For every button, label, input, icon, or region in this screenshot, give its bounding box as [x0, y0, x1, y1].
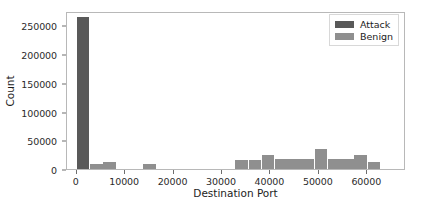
bar-benign-2730: [90, 164, 103, 169]
x-tick-mark-60000: [366, 170, 367, 174]
legend-swatch-benign-icon: [335, 33, 354, 40]
x-tick-label-0: 0: [73, 176, 79, 187]
bar-benign-38220: [262, 155, 275, 169]
y-tick-label-200000: 200000: [21, 50, 57, 61]
y-tick-label-250000: 250000: [21, 21, 57, 32]
x-tick-mark-10000: [124, 170, 125, 174]
x-tick-label-60000: 60000: [351, 176, 381, 187]
x-tick-label-50000: 50000: [303, 176, 333, 187]
x-axis-label: Destination Port: [66, 187, 405, 197]
bar-benign-57330: [354, 155, 367, 169]
x-axis: Destination Port 01000020000300004000050…: [66, 170, 405, 197]
x-tick-mark-40000: [269, 170, 270, 174]
bar-benign-40950: [275, 159, 288, 169]
bar-benign-35490: [249, 160, 262, 169]
legend-swatch-attack-icon: [335, 21, 354, 28]
legend-label-attack: Attack: [360, 19, 390, 30]
bar-benign-51870: [328, 159, 341, 169]
x-tick-label-20000: 20000: [158, 176, 188, 187]
y-tick-label-100000: 100000: [21, 107, 57, 118]
x-tick-mark-30000: [221, 170, 222, 174]
x-tick-label-30000: 30000: [206, 176, 236, 187]
x-tick-mark-0: [76, 170, 77, 174]
bar-benign-13650: [143, 164, 156, 169]
legend-entry-benign[interactable]: Benign: [335, 30, 393, 42]
legend-label-benign: Benign: [360, 31, 393, 42]
y-tick-label-150000: 150000: [21, 78, 57, 89]
bar-benign-5460: [103, 162, 116, 169]
legend-entry-attack[interactable]: Attack: [335, 18, 393, 30]
histogram-figure: Count 050000100000150000200000250000 Des…: [0, 0, 422, 197]
bar-benign-54600: [341, 159, 354, 169]
x-tick-label-40000: 40000: [255, 176, 285, 187]
bar-benign-32760: [235, 160, 248, 169]
bar-benign-60060: [368, 162, 381, 169]
bar-benign-46410: [301, 159, 314, 169]
y-tick-label-50000: 50000: [27, 136, 57, 147]
legend: Attack Benign: [329, 14, 399, 46]
bar-attack-0: [77, 17, 90, 169]
x-tick-mark-20000: [173, 170, 174, 174]
x-tick-label-10000: 10000: [109, 176, 139, 187]
x-tick-mark-50000: [318, 170, 319, 174]
bar-benign-49140: [315, 149, 328, 169]
y-axis: 050000100000150000200000250000: [0, 12, 66, 170]
y-tick-label-0: 0: [51, 165, 57, 176]
bar-benign-43680: [288, 159, 301, 169]
